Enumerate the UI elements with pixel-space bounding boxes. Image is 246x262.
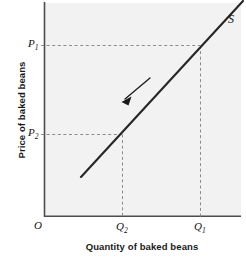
tick-label-q2-base: Q [116,220,124,232]
supply-curve-label: S [228,12,234,27]
tick-label-q1-base: Q [194,220,202,232]
x-axis-title: Quantity of baked beans [43,241,241,252]
tick-label-q1: Q1 [194,220,206,235]
tick-label-q1-subscript: 1 [202,226,206,235]
tick-label-p2: P2 [28,126,38,141]
tick-label-p1-base: P [28,37,35,49]
tick-label-p2-subscript: 2 [35,132,39,141]
tick-label-q2: Q2 [116,220,128,235]
tick-label-q2-subscript: 2 [124,226,128,235]
tick-label-p2-base: P [28,126,35,138]
y-axis-title: Price of baked beans [16,20,27,200]
supply-curve-figure: Price of baked beans Quantity of baked b… [0,0,246,262]
origin-label: O [34,219,42,231]
tick-label-p1: P1 [28,37,38,52]
tick-label-p1-subscript: 1 [35,43,39,52]
